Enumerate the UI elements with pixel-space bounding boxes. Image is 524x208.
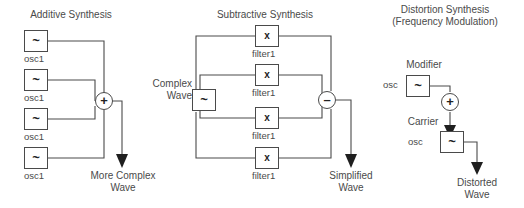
modifier-osc-label: osc bbox=[383, 80, 398, 91]
oscillator-label-4: osc1 bbox=[24, 171, 44, 182]
title-distortion-line2: (Frequency Modulation) bbox=[375, 16, 515, 28]
wire-sub-out4 bbox=[279, 109, 331, 158]
oscillator-box-4[interactable]: ~ bbox=[24, 147, 48, 169]
oscillator-label-2: osc1 bbox=[24, 93, 44, 104]
title-additive: Additive Synthesis bbox=[16, 9, 126, 21]
plus-icon: + bbox=[446, 95, 454, 108]
filter-label-3: filter1 bbox=[252, 131, 275, 142]
source-oscillator-box[interactable]: ~ bbox=[192, 89, 216, 111]
difference-node-subtractive[interactable]: – bbox=[318, 91, 336, 109]
tilde-icon: ~ bbox=[200, 93, 208, 106]
wire-additive-osc2 bbox=[48, 80, 95, 101]
wire-sub-out1 bbox=[279, 36, 331, 91]
wire-sub-in4 bbox=[196, 112, 255, 158]
wire-sub-out3 bbox=[279, 105, 322, 118]
wire-dist-modifier bbox=[430, 86, 450, 92]
output-label-additive: More Complex Wave bbox=[77, 170, 169, 193]
output-label-subtractive: Simplified Wave bbox=[312, 170, 390, 193]
wire-additive-output bbox=[112, 101, 122, 155]
tilde-icon: ~ bbox=[414, 79, 422, 92]
wire-additive-osc3 bbox=[48, 106, 95, 119]
oscillator-box-2[interactable]: ~ bbox=[24, 69, 48, 91]
multiply-icon: x bbox=[264, 113, 270, 123]
tilde-icon: ~ bbox=[32, 112, 40, 125]
filter-box-3[interactable]: x bbox=[255, 107, 279, 129]
filter-label-2: filter1 bbox=[252, 88, 275, 99]
wire-sub-in3 bbox=[200, 110, 255, 118]
arrowhead-additive-output bbox=[116, 154, 128, 168]
oscillator-label-1: osc1 bbox=[24, 54, 44, 65]
arrowhead-sub-output bbox=[345, 154, 357, 168]
tilde-icon: ~ bbox=[32, 34, 40, 47]
filter-box-2[interactable]: x bbox=[255, 64, 279, 86]
filter-label-1: filter1 bbox=[252, 49, 275, 60]
wire-dist-output bbox=[464, 142, 477, 163]
multiply-icon: x bbox=[264, 153, 270, 163]
carrier-oscillator-box[interactable]: ~ bbox=[440, 131, 464, 153]
synthesis-diagram: Additive Synthesis Subtractive Synthesis… bbox=[0, 0, 524, 208]
minus-icon: – bbox=[323, 93, 330, 106]
oscillator-box-1[interactable]: ~ bbox=[24, 30, 48, 52]
wire-additive-osc1 bbox=[48, 41, 104, 93]
multiply-icon: x bbox=[264, 70, 270, 80]
wire-sub-out2 bbox=[279, 75, 322, 98]
source-label-subtractive: Complex Wave bbox=[148, 78, 192, 101]
plus-icon: + bbox=[100, 94, 108, 107]
sum-node-distortion[interactable]: + bbox=[441, 93, 459, 111]
output-label-distortion: Distorted Wave bbox=[440, 177, 514, 200]
carrier-title: Carrier bbox=[398, 116, 448, 128]
tilde-icon: ~ bbox=[448, 135, 456, 148]
title-distortion-line1: Distortion Synthesis bbox=[375, 4, 515, 16]
wire-additive-osc4 bbox=[48, 110, 104, 158]
tilde-icon: ~ bbox=[32, 151, 40, 164]
title-subtractive: Subtractive Synthesis bbox=[200, 9, 330, 21]
modifier-title: Modifier bbox=[396, 59, 452, 71]
wire-sub-output bbox=[336, 100, 351, 155]
tilde-icon: ~ bbox=[32, 73, 40, 86]
filter-box-4[interactable]: x bbox=[255, 147, 279, 169]
filter-label-4: filter1 bbox=[252, 171, 275, 182]
arrowhead-dist-output bbox=[471, 162, 483, 175]
multiply-icon: x bbox=[264, 31, 270, 41]
modifier-oscillator-box[interactable]: ~ bbox=[406, 75, 430, 97]
oscillator-label-3: osc1 bbox=[24, 132, 44, 143]
carrier-osc-label: osc bbox=[408, 137, 423, 148]
oscillator-box-3[interactable]: ~ bbox=[24, 108, 48, 130]
filter-box-1[interactable]: x bbox=[255, 25, 279, 47]
sum-node-additive[interactable]: + bbox=[95, 92, 113, 110]
